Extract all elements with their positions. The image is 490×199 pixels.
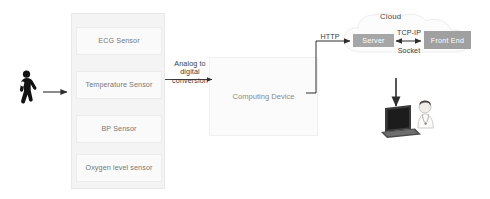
- sensor-label: Oxygen level sensor: [85, 164, 152, 172]
- server-box[interactable]: Server: [353, 34, 394, 47]
- computing-device-box[interactable]: Computing Device: [209, 57, 318, 136]
- workstation-group: [378, 96, 458, 148]
- analog-to-digital-label: Analog to digital conversion: [165, 60, 215, 85]
- sensor-item-oxygen[interactable]: Oxygen level sensor: [76, 154, 162, 182]
- sensor-label: BP Sensor: [101, 125, 136, 133]
- computing-device-label: Computing Device: [232, 92, 294, 101]
- frontend-box[interactable]: Front End: [424, 31, 471, 49]
- sensor-label: Temperature Sensor: [86, 81, 153, 89]
- sensor-item-ecg[interactable]: ECG Sensor: [76, 27, 162, 55]
- server-label: Server: [362, 36, 384, 45]
- diagram-canvas: ECG Sensor Temperature Sensor BP Sensor …: [0, 0, 490, 199]
- doctor-icon: [418, 100, 433, 128]
- sensor-label: ECG Sensor: [98, 37, 139, 45]
- http-label: HTTP: [316, 33, 344, 41]
- socket-label: Socket: [396, 47, 422, 55]
- tcpip-label: TCP-IP: [395, 29, 423, 37]
- sensor-panel: ECG Sensor Temperature Sensor BP Sensor …: [71, 13, 165, 189]
- frontend-label: Front End: [431, 36, 464, 45]
- walking-person-icon: [14, 70, 40, 110]
- cloud-label: Cloud: [380, 12, 401, 21]
- sensor-item-bp[interactable]: BP Sensor: [76, 115, 162, 143]
- sensor-item-temperature[interactable]: Temperature Sensor: [76, 71, 162, 99]
- laptop-icon: [381, 105, 421, 138]
